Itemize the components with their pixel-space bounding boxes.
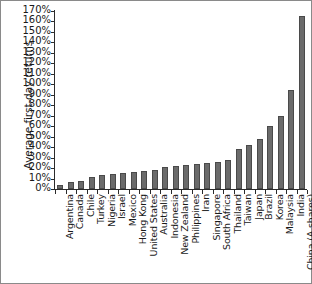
x-axis-tick-label: Taiwan xyxy=(242,194,253,225)
bar xyxy=(57,185,63,189)
bar xyxy=(236,149,242,189)
bar-slot xyxy=(297,11,308,189)
x-axis-tick-mark xyxy=(97,190,98,194)
x-axis-tick-mark xyxy=(307,190,308,194)
x-axis-tick-mark xyxy=(129,190,130,194)
y-axis-tick-label: 30% xyxy=(5,151,51,162)
bar xyxy=(152,170,158,189)
x-axis-labels: ArgentinaCanadaChileTurkeyNigeriaIsraelM… xyxy=(55,194,307,284)
bar-slot xyxy=(118,11,129,189)
y-axis-tick-label: 90% xyxy=(5,88,51,99)
bar xyxy=(162,167,168,189)
y-axis-tick-label: 170% xyxy=(5,4,51,15)
bar-slot xyxy=(202,11,213,189)
bar-slot xyxy=(108,11,119,189)
x-axis-tick-mark xyxy=(213,190,214,194)
x-axis-tick-mark xyxy=(171,190,172,194)
y-axis-tick-label: 80% xyxy=(5,98,51,109)
x-axis-tick-label: South Africa xyxy=(221,194,232,250)
bar xyxy=(89,177,95,189)
bar xyxy=(246,145,252,189)
x-axis-tick-mark xyxy=(87,190,88,194)
x-axis-tick-mark xyxy=(192,190,193,194)
bar xyxy=(278,116,284,189)
y-axis-tick-label: 140% xyxy=(5,35,51,46)
bar xyxy=(299,16,305,189)
bar xyxy=(215,162,221,189)
x-axis-tick-mark xyxy=(150,190,151,194)
y-axis-tick-label: 20% xyxy=(5,161,51,172)
bar-slot xyxy=(213,11,224,189)
bar-slot xyxy=(160,11,171,189)
y-axis-tick-label: 50% xyxy=(5,130,51,141)
x-axis-tick-label: China (A shares) xyxy=(305,194,312,270)
bar xyxy=(257,139,263,189)
y-axis-tick-label: 120% xyxy=(5,56,51,67)
bar-slot xyxy=(286,11,297,189)
x-axis-tick-mark xyxy=(139,190,140,194)
x-axis-tick-mark xyxy=(66,190,67,194)
y-axis-tick-label: 60% xyxy=(5,119,51,130)
plot-area: 0%10%20%30%40%50%60%70%80%90%100%110%120… xyxy=(55,11,307,189)
bar-slot xyxy=(181,11,192,189)
bar xyxy=(99,175,105,189)
bar-slot xyxy=(244,11,255,189)
bar-slot xyxy=(66,11,77,189)
y-axis-tick-label: 150% xyxy=(5,25,51,36)
bar xyxy=(173,166,179,189)
y-axis-tick-label: 110% xyxy=(5,67,51,78)
bar-slot xyxy=(234,11,245,189)
x-axis-tick-label: Australia xyxy=(158,194,169,235)
x-axis-tick-mark xyxy=(55,190,56,194)
x-axis-tick-label: Canada xyxy=(74,194,85,229)
x-axis-tick-mark xyxy=(76,190,77,194)
x-axis-tick-label: New Zealand xyxy=(179,194,190,255)
y-axis-tick-label: 130% xyxy=(5,46,51,57)
bar xyxy=(225,160,231,189)
x-axis-tick-label: Israel xyxy=(116,194,127,219)
x-axis-tick-mark xyxy=(181,190,182,194)
bar xyxy=(288,90,294,189)
y-axis-tick-label: 0% xyxy=(5,182,51,193)
y-axis-tick-label: 100% xyxy=(5,77,51,88)
x-axis-tick-mark xyxy=(276,190,277,194)
bar xyxy=(131,172,137,189)
x-axis-tick-mark xyxy=(265,190,266,194)
bar-slot xyxy=(276,11,287,189)
x-axis-tick-mark xyxy=(118,190,119,194)
bar-slot xyxy=(171,11,182,189)
bar-slot xyxy=(55,11,66,189)
bar xyxy=(267,126,273,189)
y-axis-tick-label: 40% xyxy=(5,140,51,151)
x-axis-tick-mark xyxy=(160,190,161,194)
bar-slot xyxy=(97,11,108,189)
y-axis-tick-label: 160% xyxy=(5,14,51,25)
bar-slot xyxy=(192,11,203,189)
chart-figure: Average first-day returns 0%10%20%30%40%… xyxy=(0,0,312,284)
x-axis-tick-mark xyxy=(108,190,109,194)
x-axis-tick-label: Turkey xyxy=(95,194,106,224)
bar-slot xyxy=(255,11,266,189)
bar xyxy=(141,171,147,189)
x-axis-tick-label: Hong Kong xyxy=(137,194,148,244)
bar xyxy=(120,173,126,189)
bar-slot xyxy=(139,11,150,189)
x-axis-tick-label: Iran xyxy=(200,194,211,212)
y-axis-tick-label: 10% xyxy=(5,172,51,183)
bar xyxy=(183,165,189,189)
bar-slot xyxy=(76,11,87,189)
bar-slot xyxy=(129,11,140,189)
bar xyxy=(204,163,210,189)
bar xyxy=(78,181,84,189)
x-axis-tick-mark xyxy=(255,190,256,194)
x-axis-tick-label: Brazil xyxy=(263,194,274,220)
x-axis-tick-mark xyxy=(286,190,287,194)
bar xyxy=(68,182,74,189)
bar-slot xyxy=(223,11,234,189)
x-axis-tick-mark xyxy=(223,190,224,194)
x-axis-tick-label: Malaysia xyxy=(284,194,295,234)
bar-series xyxy=(55,11,307,189)
x-axis-tick-mark xyxy=(234,190,235,194)
y-axis-tick-label: 70% xyxy=(5,109,51,120)
x-axis-tick-mark xyxy=(297,190,298,194)
